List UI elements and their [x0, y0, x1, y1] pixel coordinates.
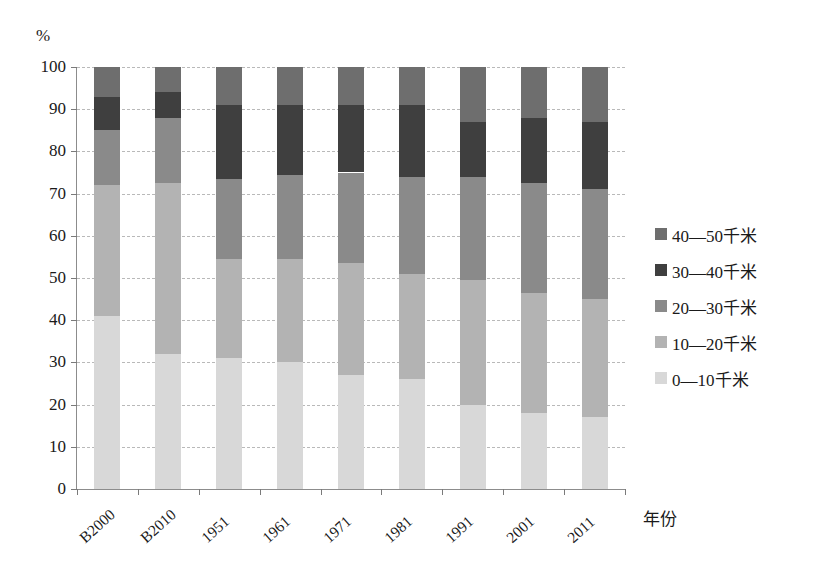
bar-segment[interactable] [338, 173, 364, 264]
bar-segment[interactable] [521, 118, 547, 183]
x-tick-mark [381, 489, 382, 495]
bar-segment[interactable] [94, 67, 120, 97]
stacked-bar[interactable] [521, 67, 547, 489]
legend-label: 20—30千米 [672, 294, 757, 319]
bar-segment[interactable] [460, 122, 486, 177]
bar-segment[interactable] [277, 105, 303, 175]
legend-swatch-icon [655, 228, 667, 240]
stacked-bar[interactable] [399, 67, 425, 489]
bar-segment[interactable] [399, 177, 425, 274]
bar-segment[interactable] [582, 67, 608, 122]
bar-segment[interactable] [338, 375, 364, 489]
bar-segment[interactable] [216, 105, 242, 179]
x-tick-label: 2001 [502, 512, 537, 546]
x-tick-mark [321, 489, 322, 495]
x-tick-label: 1971 [320, 512, 355, 546]
bar-segment[interactable] [582, 299, 608, 417]
bar-segment[interactable] [216, 259, 242, 358]
bar-segment[interactable] [277, 362, 303, 489]
bar-segment[interactable] [277, 259, 303, 362]
bar-segment[interactable] [399, 274, 425, 380]
bar-segment[interactable] [521, 413, 547, 489]
bar-group[interactable] [338, 67, 364, 489]
legend-item[interactable]: 10—20千米 [655, 324, 820, 360]
bar-segment[interactable] [216, 358, 242, 489]
bar-segment[interactable] [460, 67, 486, 122]
bars-layer [77, 67, 625, 489]
bar-segment[interactable] [521, 67, 547, 118]
stacked-bar-chart: % 0102030405060708090100 B2000B201019511… [0, 0, 824, 578]
legend-item[interactable]: 0—10千米 [655, 360, 820, 396]
y-axis-unit-label: % [36, 26, 50, 46]
bar-segment[interactable] [399, 379, 425, 489]
x-tick-mark [442, 489, 443, 495]
bar-segment[interactable] [216, 67, 242, 105]
bar-segment[interactable] [460, 177, 486, 280]
x-tick-label: 1981 [381, 512, 416, 546]
y-tick-label: 30 [49, 352, 66, 372]
bar-segment[interactable] [460, 280, 486, 404]
stacked-bar[interactable] [94, 67, 120, 489]
y-tick-label: 40 [49, 310, 66, 330]
y-tick-label: 0 [58, 479, 67, 499]
bar-group[interactable] [155, 67, 181, 489]
stacked-bar[interactable] [338, 67, 364, 489]
legend-swatch-icon [655, 336, 667, 348]
bar-group[interactable] [216, 67, 242, 489]
bar-segment[interactable] [155, 183, 181, 354]
x-tick-mark [199, 489, 200, 495]
legend-item[interactable]: 20—30千米 [655, 288, 820, 324]
legend-swatch-icon [655, 264, 667, 276]
x-tick-label: 1991 [442, 512, 477, 546]
bar-segment[interactable] [338, 105, 364, 173]
x-tick-mark [503, 489, 504, 495]
x-tick-label: B2000 [76, 506, 119, 547]
stacked-bar[interactable] [460, 67, 486, 489]
legend-label: 30—40千米 [672, 258, 757, 283]
x-tick-label: B2010 [137, 506, 180, 547]
plot-area: 0102030405060708090100 [76, 67, 625, 490]
bar-segment[interactable] [521, 293, 547, 413]
bar-segment[interactable] [94, 97, 120, 131]
legend-item[interactable]: 40—50千米 [655, 216, 820, 252]
bar-segment[interactable] [155, 354, 181, 489]
legend-label: 40—50千米 [672, 222, 757, 247]
x-tick-mark [564, 489, 565, 495]
stacked-bar[interactable] [582, 67, 608, 489]
bar-group[interactable] [277, 67, 303, 489]
y-tick-label: 50 [49, 268, 66, 288]
x-tick-label: 2011 [563, 513, 598, 547]
stacked-bar[interactable] [216, 67, 242, 489]
x-tick-mark [260, 489, 261, 495]
bar-segment[interactable] [521, 183, 547, 293]
bar-segment[interactable] [94, 130, 120, 185]
stacked-bar[interactable] [277, 67, 303, 489]
bar-segment[interactable] [155, 118, 181, 183]
bar-segment[interactable] [460, 405, 486, 489]
chart-legend: 40—50千米30—40千米20—30千米10—20千米0—10千米 [655, 216, 820, 396]
bar-segment[interactable] [155, 92, 181, 117]
bar-segment[interactable] [582, 189, 608, 299]
bar-segment[interactable] [94, 316, 120, 489]
bar-segment[interactable] [582, 417, 608, 489]
y-tick-label: 70 [49, 184, 66, 204]
bar-segment[interactable] [338, 67, 364, 105]
bar-segment[interactable] [582, 122, 608, 190]
bar-group[interactable] [399, 67, 425, 489]
bar-segment[interactable] [277, 175, 303, 259]
stacked-bar[interactable] [155, 67, 181, 489]
bar-group[interactable] [460, 67, 486, 489]
bar-group[interactable] [94, 67, 120, 489]
bar-segment[interactable] [338, 263, 364, 375]
x-tick-mark [138, 489, 139, 495]
y-tick-label: 20 [49, 395, 66, 415]
bar-segment[interactable] [277, 67, 303, 105]
bar-group[interactable] [582, 67, 608, 489]
bar-segment[interactable] [399, 105, 425, 177]
bar-segment[interactable] [94, 185, 120, 316]
legend-item[interactable]: 30—40千米 [655, 252, 820, 288]
bar-group[interactable] [521, 67, 547, 489]
bar-segment[interactable] [155, 67, 181, 92]
bar-segment[interactable] [216, 179, 242, 259]
bar-segment[interactable] [399, 67, 425, 105]
